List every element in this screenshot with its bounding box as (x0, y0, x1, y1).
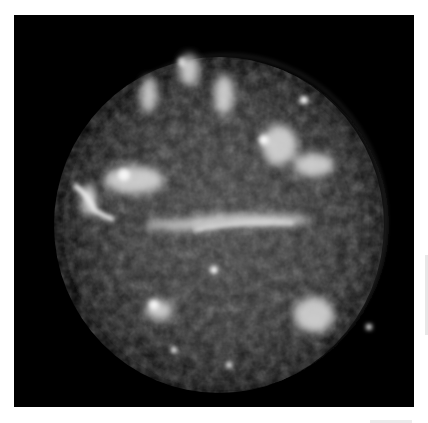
astronomical-image (14, 15, 414, 407)
nebula-render (14, 15, 414, 407)
